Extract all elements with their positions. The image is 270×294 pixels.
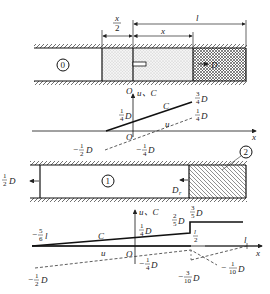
svg-text:−: − bbox=[136, 144, 141, 154]
graph1-curve-u-label: u bbox=[165, 119, 170, 129]
label-c-end: 3 4 D bbox=[195, 90, 208, 106]
detonation-wave-label: D bbox=[210, 60, 218, 70]
svg-text:D: D bbox=[195, 208, 203, 218]
svg-text:10: 10 bbox=[229, 268, 237, 276]
svg-text:−: − bbox=[28, 274, 33, 284]
region-2-label: 2 bbox=[244, 147, 249, 157]
svg-text:D: D bbox=[85, 145, 93, 155]
svg-text:3: 3 bbox=[191, 204, 195, 212]
reflected-wave-label: D bbox=[171, 185, 179, 195]
svg-text:10: 10 bbox=[184, 277, 192, 285]
svg-text:−: − bbox=[32, 229, 37, 239]
svg-text:5: 5 bbox=[191, 212, 195, 220]
svg-text:1: 1 bbox=[143, 142, 147, 150]
svg-text:−: − bbox=[139, 258, 144, 268]
svg-text:5: 5 bbox=[173, 220, 177, 228]
label-c-start: 1 4 D bbox=[119, 107, 132, 123]
svg-text:1: 1 bbox=[146, 256, 150, 264]
panel-1-tube: x 2 x l 0 D bbox=[34, 13, 247, 85]
label-u-right: − 1 10 D bbox=[221, 260, 245, 276]
graph2-curve-c-label: C bbox=[98, 231, 105, 241]
svg-text:D: D bbox=[200, 94, 208, 104]
dim-x: x bbox=[160, 26, 165, 36]
graph2-curve-u-reflect bbox=[191, 246, 247, 260]
svg-text:1: 1 bbox=[80, 142, 84, 150]
graph2-curve-u-label: u bbox=[101, 248, 106, 258]
svg-text:D: D bbox=[144, 226, 152, 236]
graph2-l-label: l bbox=[244, 235, 247, 245]
left-wave-label: 1 2 D bbox=[2, 172, 16, 188]
svg-text:l: l bbox=[194, 228, 196, 236]
label-u-origin: − 1 4 D bbox=[139, 256, 158, 272]
explosive-region bbox=[193, 48, 246, 81]
svg-text:2: 2 bbox=[80, 150, 84, 158]
svg-text:D: D bbox=[237, 264, 245, 274]
svg-text:5: 5 bbox=[39, 227, 43, 235]
graph-1: O u、C O x C u 1 4 D 3 4 D 1 4 D bbox=[32, 86, 256, 158]
svg-text:D: D bbox=[150, 260, 158, 270]
graph1-y-axis-label: u、C bbox=[137, 88, 158, 98]
svg-text:4: 4 bbox=[140, 230, 144, 238]
dim-l: l bbox=[196, 13, 199, 23]
graph1-curve-c-label: C bbox=[163, 101, 170, 111]
svg-text:D: D bbox=[40, 275, 48, 285]
detonation-diagram: x 2 x l 0 D O u、C O x bbox=[0, 0, 270, 294]
region-1-label: 1 bbox=[106, 176, 111, 186]
graph1-origin: O bbox=[126, 132, 133, 142]
detonation-products-region bbox=[102, 48, 193, 81]
svg-text:3: 3 bbox=[196, 90, 200, 98]
dim-half-x-den: 2 bbox=[115, 23, 120, 33]
label-c-jump-low: 2 5 D bbox=[172, 212, 185, 228]
dimension-lines bbox=[102, 20, 246, 47]
svg-text:2: 2 bbox=[173, 212, 177, 220]
graph2-x-axis-label: x bbox=[255, 248, 260, 258]
region-0-label: 0 bbox=[61, 60, 66, 70]
graph-2: u、C O x l C u − 5 6 l 1 4 D 2 bbox=[28, 204, 262, 288]
label-c-origin: 1 4 D bbox=[139, 222, 152, 238]
label-u-end: 1 4 D bbox=[195, 107, 208, 123]
reflected-wave-sub: r bbox=[179, 190, 182, 196]
bottom-wall-hatch-2 bbox=[30, 198, 247, 202]
svg-text:2: 2 bbox=[194, 236, 198, 244]
svg-text:1: 1 bbox=[3, 172, 7, 180]
svg-text:4: 4 bbox=[196, 115, 200, 123]
label-c-jump-high: 3 5 D bbox=[190, 204, 203, 220]
label-u-zero: − 1 4 D bbox=[136, 142, 155, 158]
svg-text:4: 4 bbox=[120, 115, 124, 123]
label-half-l: l 2 bbox=[193, 228, 198, 244]
svg-text:2: 2 bbox=[3, 180, 7, 188]
svg-text:l: l bbox=[45, 231, 48, 241]
svg-text:D: D bbox=[192, 273, 200, 283]
region-2-hatched bbox=[189, 165, 246, 198]
svg-text:1: 1 bbox=[196, 107, 200, 115]
label-u-start: − 1 2 D bbox=[73, 142, 93, 158]
svg-text:1: 1 bbox=[231, 260, 235, 268]
graph2-curve-c bbox=[32, 222, 243, 246]
svg-text:D: D bbox=[200, 111, 208, 121]
dim-half-x-num: x bbox=[114, 13, 119, 23]
svg-text:2: 2 bbox=[35, 280, 39, 288]
detonator-icon bbox=[133, 62, 146, 66]
svg-text:4: 4 bbox=[146, 264, 150, 272]
graph1-curve-c bbox=[106, 102, 192, 131]
label-u-left: − 1 2 D bbox=[28, 272, 48, 288]
label-c-left: − 5 6 l bbox=[32, 227, 48, 243]
svg-text:1: 1 bbox=[140, 222, 144, 230]
svg-text:1: 1 bbox=[35, 272, 39, 280]
svg-text:−: − bbox=[73, 144, 78, 154]
svg-text:D: D bbox=[147, 145, 155, 155]
svg-text:D: D bbox=[8, 176, 16, 186]
svg-text:D: D bbox=[124, 111, 132, 121]
svg-text:4: 4 bbox=[196, 98, 200, 106]
svg-text:D: D bbox=[177, 216, 185, 226]
svg-text:−: − bbox=[221, 262, 226, 272]
svg-text:3: 3 bbox=[186, 269, 190, 277]
graph1-origin-top: O bbox=[126, 86, 133, 96]
svg-text:4: 4 bbox=[143, 150, 147, 158]
label-u-jump: − 3 10 D bbox=[178, 269, 200, 285]
graph1-x-axis-label: x bbox=[251, 132, 256, 142]
svg-text:6: 6 bbox=[39, 235, 43, 243]
graph2-y-axis-label: u、C bbox=[139, 207, 160, 217]
svg-text:1: 1 bbox=[120, 107, 124, 115]
svg-text:−: − bbox=[178, 271, 183, 281]
